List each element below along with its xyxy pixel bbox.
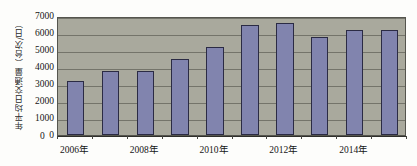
x-axis-tickmark	[371, 136, 372, 139]
y-axis-tick-label: 5000	[35, 46, 54, 56]
y-axis-tick-label: 6000	[35, 29, 54, 39]
x-axis-tick-label: 2010年	[200, 142, 229, 156]
x-axis-tickmark	[301, 136, 302, 139]
x-axis-tickmark	[92, 136, 93, 139]
bar	[206, 47, 223, 135]
x-axis-tickmark	[406, 136, 407, 139]
y-axis-tick-labels: 70006000500040003000200010000	[26, 14, 54, 138]
bar	[311, 37, 328, 135]
y-axis-tick-label: 3000	[35, 80, 54, 90]
bar	[171, 59, 188, 136]
bar	[241, 25, 258, 136]
bar-chart: 年平均日交通量（台次/日） 70006000500040003000200010…	[0, 0, 417, 166]
x-axis-tickmark	[336, 136, 337, 139]
x-axis-tickmark	[266, 136, 267, 139]
bars-container	[58, 18, 405, 135]
x-axis-tick-label: 2008年	[130, 142, 159, 156]
x-axis-tickmark	[57, 136, 58, 139]
bar	[346, 30, 363, 135]
y-axis-tick-label: 7000	[35, 12, 54, 22]
y-axis-zero-label: 0	[40, 131, 45, 141]
x-axis-tickmark	[162, 136, 163, 139]
bar	[276, 23, 293, 135]
x-axis-tick-label: 2014年	[339, 142, 368, 156]
x-axis-tick-label: 2006年	[60, 142, 89, 156]
x-axis-tick-label: 2012年	[269, 142, 298, 156]
y-axis-title-text: 年平均日交通量（台次/日）	[14, 19, 26, 130]
bar	[137, 71, 154, 135]
bar	[381, 30, 398, 135]
x-axis-tickmark	[232, 136, 233, 139]
bar	[102, 71, 119, 135]
plot-area	[57, 17, 406, 136]
y-axis-tick-label: 4000	[35, 63, 54, 73]
y-axis-tick-label: 0	[49, 131, 54, 141]
y-axis-tick-label: 1000	[35, 114, 54, 124]
x-axis-tickmark	[197, 136, 198, 139]
x-axis-tick-labels: 2006年2008年2010年2012年2014年	[57, 142, 406, 162]
y-axis-tick-label: 2000	[35, 97, 54, 107]
bar	[67, 81, 84, 135]
x-axis-tickmark	[127, 136, 128, 139]
